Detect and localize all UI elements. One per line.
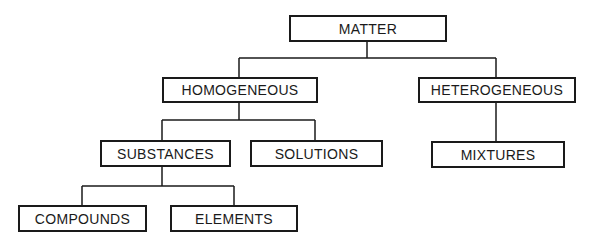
node-matter: MATTER: [289, 15, 447, 42]
node-homogeneous: HOMOGENEOUS: [162, 77, 318, 103]
node-compounds: COMPOUNDS: [18, 205, 147, 232]
node-substances: SUBSTANCES: [100, 140, 231, 167]
node-solutions: SOLUTIONS: [250, 140, 383, 167]
node-mixtures: MIXTURES: [431, 141, 565, 168]
node-elements: ELEMENTS: [170, 205, 298, 232]
node-heterogeneous: HETEROGENEOUS: [418, 77, 576, 103]
